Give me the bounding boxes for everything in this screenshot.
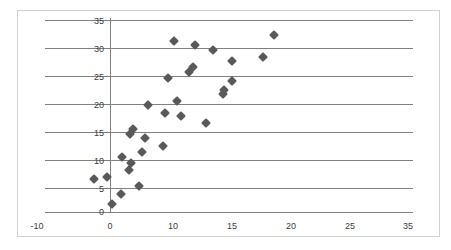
data-point: [208, 45, 218, 55]
data-point: [176, 111, 186, 121]
data-point: [158, 141, 168, 151]
data-point: [89, 174, 99, 184]
y-tick-label-30: 30: [74, 44, 104, 54]
x-tick-label-35: 35: [393, 221, 423, 231]
y-tick-label-15: 15: [74, 128, 104, 138]
y-tick-label-0: 0: [74, 207, 104, 217]
y-tick-label-10: 10: [74, 156, 104, 166]
data-point: [269, 30, 279, 40]
data-point: [258, 52, 268, 62]
data-point: [227, 76, 237, 86]
y-axis-line: [110, 18, 111, 212]
y-tick-label-25: 25: [74, 72, 104, 82]
y-tick-label-5: 5: [74, 184, 104, 194]
data-point: [169, 36, 179, 46]
data-point: [137, 147, 147, 157]
y-tick-label-20: 20: [74, 100, 104, 110]
data-point: [160, 108, 170, 118]
data-point: [134, 181, 144, 191]
y-tick-label-35: 35: [74, 16, 104, 26]
x-tick-label-15: 15: [217, 221, 247, 231]
data-point: [163, 73, 173, 83]
data-point: [107, 199, 117, 209]
x-tick-label-0: 0: [95, 221, 125, 231]
x-tick-label-neg10: -10: [22, 221, 52, 231]
data-point: [201, 118, 211, 128]
x-tick-label-20: 20: [276, 221, 306, 231]
x-tick-label-25: 25: [335, 221, 365, 231]
data-point: [227, 56, 237, 66]
data-point: [116, 189, 126, 199]
scatter-plot: 35302520151050 -1001015202535: [0, 0, 451, 250]
data-point: [143, 100, 153, 110]
data-point: [140, 134, 150, 144]
x-tick-label-10: 10: [158, 221, 188, 231]
